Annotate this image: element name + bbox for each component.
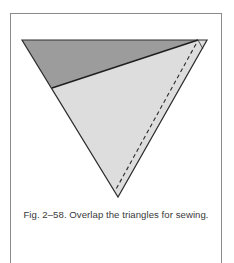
figure-caption: Fig. 2–58. Overlap the triangles for sew…: [10, 209, 222, 220]
